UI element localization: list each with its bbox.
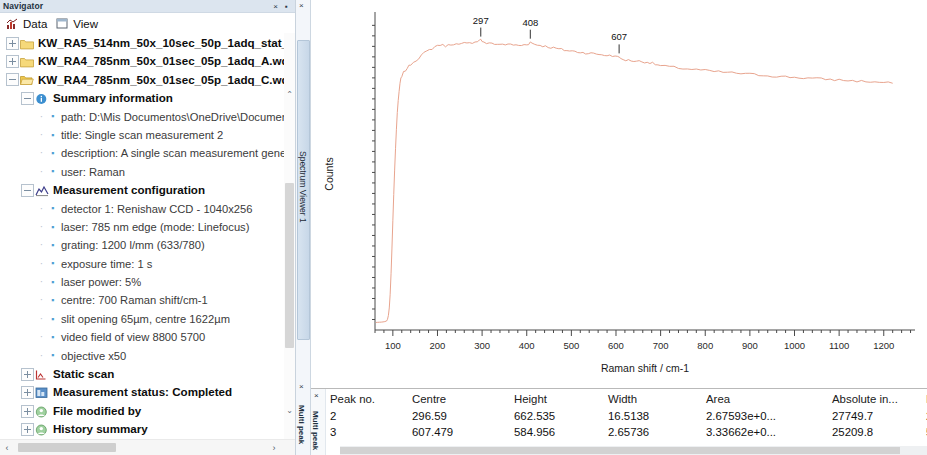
svg-text:1100: 1100 <box>829 340 849 351</box>
peak-table-header-cell[interactable]: Height <box>510 389 604 408</box>
peak-table-horizontal-scrollbar[interactable] <box>340 446 927 455</box>
dock-tab-spectrum-viewer[interactable]: Spectrum Viewer 1 <box>297 40 310 340</box>
tree-item[interactable]: ·▪description: A single scan measurement… <box>2 144 295 162</box>
tree-collapse-icon[interactable] <box>21 184 34 197</box>
tree-item[interactable]: ·▪user: Raman <box>2 163 295 181</box>
folder-icon <box>20 37 34 50</box>
tree-expand-icon[interactable] <box>21 423 34 436</box>
spectrum-trace <box>376 39 893 322</box>
spectrum-plot[interactable]: 100200300400500600700800900100011001200R… <box>311 0 927 388</box>
tree-horizontal-scrollbar[interactable]: ‹ › <box>0 439 295 455</box>
tree-item[interactable]: ·▪slit opening 65µm, centre 1622µm <box>2 310 295 328</box>
tree-scroll-down-arrow[interactable]: ⌄ <box>284 405 295 417</box>
tree-item-label: description: A single scan measurement g… <box>61 144 290 162</box>
navigator-panel: Navigator × ▪ Data <box>0 0 296 455</box>
tree-scroll-thumb[interactable] <box>285 183 294 348</box>
peak-annotation-label: 297 <box>473 15 489 26</box>
tree-item[interactable]: Measurement status: Completed <box>2 383 295 401</box>
tree-collapse-icon[interactable] <box>6 73 19 86</box>
tree-item[interactable]: ·▪laser power: 5% <box>2 273 295 291</box>
svg-text:500: 500 <box>563 340 579 351</box>
navigator-tree[interactable]: ⌃ ⌄ KW_RA5_514nm_50x_10sec_50p_1adq_stat… <box>0 33 295 439</box>
navigator-close-icon[interactable]: × <box>270 1 281 12</box>
application-window: Navigator × ▪ Data <box>0 0 927 455</box>
folder-icon <box>20 55 34 68</box>
tree-item-label: laser power: 5% <box>61 273 141 291</box>
peak-table: Peak no.CentreHeightWidthAreaAbsolute in… <box>326 389 927 440</box>
tree-scroll-right-arrow[interactable]: › <box>267 443 281 453</box>
tree-scroll-left-arrow[interactable]: ‹ <box>0 443 14 453</box>
dock-close-icon[interactable]: × <box>299 1 304 10</box>
tree-item[interactable]: ·▪grating: 1200 l/mm (633/780) <box>2 236 295 254</box>
tab-data[interactable]: Data <box>6 18 47 30</box>
tree-item[interactable]: KW_RA4_785nm_50x_01sec_05p_1adq_A.wdf <box>2 52 295 70</box>
peak-table-container[interactable]: Peak no.CentreHeightWidthAreaAbsolute in… <box>326 389 927 455</box>
tree-item[interactable]: ·▪exposure time: 1 s <box>2 255 295 273</box>
tree-expand-icon[interactable] <box>21 405 34 418</box>
user-icon <box>35 405 49 418</box>
tree-hscroll-thumb[interactable] <box>18 443 116 452</box>
dot-icon: ▪ <box>47 315 58 324</box>
tree-guide: · <box>36 255 47 273</box>
tree-expand-icon[interactable] <box>21 368 34 381</box>
peak-panel-vertical-label[interactable]: Multi peak <box>311 409 325 453</box>
dot-icon: ▪ <box>47 167 58 176</box>
tree-item-label: path: D:\Mis Documentos\OneDrive\Documen <box>61 108 288 126</box>
dot-icon: ▪ <box>47 223 58 232</box>
peak-table-body: 2296.59662.53516.51382.67593e+0...27749.… <box>326 408 927 440</box>
tree-item[interactable]: ·▪video field of view 8800 5700 <box>2 328 295 346</box>
tree-item[interactable]: ·▪path: D:\Mis Documentos\OneDrive\Docum… <box>2 108 295 126</box>
dot-icon: ▪ <box>47 112 58 121</box>
tree-expand-icon[interactable] <box>21 386 34 399</box>
tree-item-label: Static scan <box>53 365 114 383</box>
peak-hscroll-thumb[interactable] <box>340 447 900 454</box>
tree-item[interactable]: ·▪laser: 785 nm edge (mode: Linefocus) <box>2 218 295 236</box>
tree-item[interactable]: File modified by <box>2 402 295 420</box>
peak-table-cell: 3.33662e+0... <box>702 424 828 440</box>
tree-item[interactable]: ·▪centre: 700 Raman shift/cm-1 <box>2 291 295 309</box>
tree-item[interactable]: Summary information <box>2 89 295 107</box>
tree-scroll-up-arrow[interactable]: ⌃ <box>284 89 295 101</box>
tree-guide: · <box>36 328 47 346</box>
tree-guide: · <box>36 108 47 126</box>
tree-item[interactable]: KW_RA5_514nm_50x_10sec_50p_1adq_stat_D.w… <box>2 34 295 52</box>
peak-table-header-cell[interactable]: Peak no. <box>326 389 408 408</box>
peak-table-header-cell[interactable]: Absolute in... <box>828 389 922 408</box>
tree-item[interactable]: Static scan <box>2 365 295 383</box>
dock-peak-close-icon[interactable]: × <box>299 382 304 391</box>
peak-table-cell: 588.188 <box>922 424 927 440</box>
svg-text:700: 700 <box>653 340 669 351</box>
peak-table-cell: 584.956 <box>510 424 604 440</box>
table-row[interactable]: 3607.479584.9562.657363.33662e+0...25209… <box>326 424 927 440</box>
tree-expand-icon[interactable] <box>6 55 19 68</box>
peak-table-header-cell[interactable]: Low edge <box>922 389 927 408</box>
tree-expand-icon[interactable] <box>6 37 19 50</box>
svg-text:1000: 1000 <box>784 340 805 351</box>
peak-table-header-cell[interactable]: Centre <box>408 389 510 408</box>
table-row[interactable]: 2296.59662.53516.51382.67593e+0...27749.… <box>326 408 927 424</box>
navigator-titlebar: Navigator × ▪ <box>0 0 295 13</box>
dot-icon: ▪ <box>47 278 58 287</box>
peak-table-header-row: Peak no.CentreHeightWidthAreaAbsolute in… <box>326 389 927 408</box>
tree-item[interactable]: ·▪title: Single scan measurement 2 <box>2 126 295 144</box>
tree-item[interactable]: ·▪objective x50 <box>2 347 295 365</box>
peak-table-header-cell[interactable]: Width <box>604 389 702 408</box>
tree-item[interactable]: KW_RA4_785nm_50x_01sec_05p_1adq_C.wdf <box>2 71 295 89</box>
svg-text:100: 100 <box>385 340 401 351</box>
peak-panel-close-icon[interactable]: × <box>314 391 319 400</box>
tree-vertical-scrollbar[interactable]: ⌃ ⌄ <box>284 33 295 439</box>
tree-item[interactable]: History summary <box>2 420 295 438</box>
dot-icon: ▪ <box>47 204 58 213</box>
peak-table-cell: 260.041 <box>922 408 927 424</box>
tree-item[interactable]: ·▪detector 1: Renishaw CCD - 1040x256 <box>2 200 295 218</box>
peak-table-cell: 16.5138 <box>604 408 702 424</box>
tab-view[interactable]: View <box>56 18 98 30</box>
tree-guide: · <box>36 218 47 236</box>
navigator-pin-icon[interactable]: ▪ <box>281 1 292 12</box>
dock-tab-multi-peak[interactable]: Multi peak <box>297 399 310 451</box>
tree-item-label: exposure time: 1 s <box>61 255 152 273</box>
peak-table-cell: 25209.8 <box>828 424 922 440</box>
tree-item[interactable]: Measurement configuration <box>2 181 295 199</box>
peak-table-header-cell[interactable]: Area <box>702 389 828 408</box>
tree-collapse-icon[interactable] <box>21 92 34 105</box>
